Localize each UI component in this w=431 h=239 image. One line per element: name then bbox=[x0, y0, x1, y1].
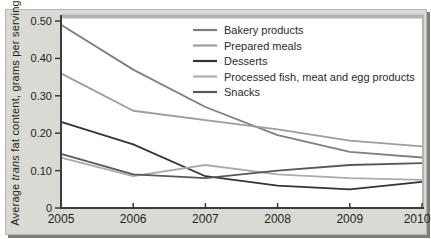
legend-label-bakery-products: Bakery products bbox=[224, 24, 304, 36]
y-tick-label-0.40: 0.40 bbox=[31, 52, 52, 64]
legend-label-processed-fish-meat-and-egg-products: Processed fish, meat and egg products bbox=[224, 71, 415, 83]
x-tick-label-2009: 2009 bbox=[336, 212, 363, 226]
legend-label-desserts: Desserts bbox=[224, 55, 268, 67]
legend-label-snacks: Snacks bbox=[224, 86, 261, 98]
y-axis-title-suffix: fat content, grams per serving bbox=[9, 0, 21, 155]
x-tick-label-2008: 2008 bbox=[264, 212, 291, 226]
y-axis-title-prefix: Average bbox=[9, 180, 21, 225]
trans-fat-line-chart: 00.100.200.300.400.502005200620072008200… bbox=[0, 0, 431, 239]
y-tick-label-0.50: 0.50 bbox=[31, 15, 52, 27]
x-tick-label-2005: 2005 bbox=[48, 212, 75, 226]
x-tick-label-2006: 2006 bbox=[120, 212, 147, 226]
y-tick-label-0.30: 0.30 bbox=[31, 90, 52, 102]
y-axis-title: Average trans fat content, grams per ser… bbox=[9, 0, 21, 226]
y-axis-title-italic-trans: trans bbox=[9, 155, 21, 180]
x-tick-label-2010: 2010 bbox=[404, 212, 431, 226]
y-tick-label-0.20: 0.20 bbox=[31, 127, 52, 139]
x-tick-label-2007: 2007 bbox=[192, 212, 219, 226]
y-tick-label-0.10: 0.10 bbox=[31, 165, 52, 177]
legend-label-prepared-meals: Prepared meals bbox=[224, 40, 302, 52]
